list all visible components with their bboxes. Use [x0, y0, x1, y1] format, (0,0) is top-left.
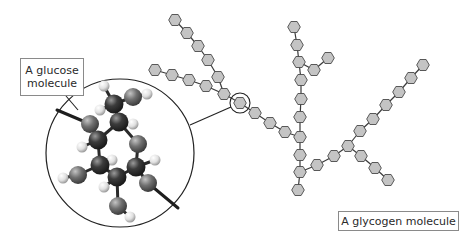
carbon-atom: [89, 131, 108, 150]
glucose-unit-hexagon: [212, 72, 225, 83]
glucose-unit-hexagon: [382, 175, 395, 186]
glucose-unit-hexagon: [295, 94, 308, 105]
glucose-unit-hexagon: [380, 100, 393, 111]
glucose-label-line1: A glucose: [21, 64, 83, 77]
glucose-unit-hexagon: [354, 126, 367, 137]
hydrogen-atom: [125, 212, 136, 223]
glucose-unit-hexagon: [200, 81, 213, 92]
glucose-unit-hexagon: [288, 22, 301, 33]
glucose-unit-hexagon: [405, 73, 418, 84]
glucose-unit-hexagon: [264, 118, 277, 129]
glucose-unit-hexagon: [218, 89, 231, 100]
oxygen-atom: [81, 115, 99, 133]
oxygen-atom: [69, 166, 87, 184]
glucose-unit-hexagon: [294, 150, 307, 161]
carbon-atom: [108, 168, 127, 187]
hydrogen-atom: [142, 89, 153, 100]
glycogen-molecule-label: A glycogen molecule: [338, 211, 459, 231]
glucose-unit-hexagon: [293, 57, 306, 68]
hydrogen-atom: [99, 81, 110, 92]
oxygen-atom: [139, 174, 157, 192]
hydrogen-atom: [128, 119, 139, 130]
oxygen-atom: [124, 88, 142, 106]
carbon-atom: [105, 95, 124, 114]
glucose-unit-hexagon: [294, 112, 307, 123]
glucose-unit-hexagon: [183, 75, 196, 86]
glucose-unit-hexagon: [169, 15, 182, 26]
zoom-connector-line: [190, 107, 231, 125]
glucose-unit-hexagon: [322, 53, 335, 64]
glucose-unit-hexagon: [295, 75, 308, 86]
glycogen-diagram: [0, 0, 469, 244]
glucose-molecule-label: A glucose molecule: [20, 58, 84, 96]
oxygen-atom: [129, 135, 147, 153]
glucose-unit-hexagon: [181, 28, 194, 39]
glucose-unit-hexagon: [234, 98, 247, 109]
glucose-unit-hexagon: [149, 65, 162, 76]
glucose-unit-hexagon: [328, 151, 341, 162]
carbon-atom: [110, 113, 129, 132]
carbon-atom: [91, 156, 110, 175]
glucose-unit-hexagon: [202, 55, 215, 66]
glucose-unit-hexagon: [249, 108, 262, 119]
glucose-unit-hexagon: [417, 60, 430, 71]
hydrogen-atom: [95, 105, 106, 116]
glucose-unit-hexagon: [308, 65, 321, 76]
carbon-atom: [127, 158, 146, 177]
glucose-unit-hexagon: [291, 40, 304, 51]
glucose-unit-hexagon: [369, 163, 382, 174]
hydrogen-atom: [58, 173, 69, 184]
glucose-unit-hexagon: [192, 41, 205, 52]
glucose-unit-hexagon: [342, 141, 355, 152]
glucose-unit-hexagon: [294, 167, 307, 178]
hydrogen-atom: [77, 142, 88, 153]
hydrogen-atom: [150, 155, 161, 166]
glucose-unit-hexagon: [355, 151, 368, 162]
glucose-unit-hexagon: [166, 70, 179, 81]
glucose-unit-hexagon: [279, 127, 292, 138]
glucose-unit-hexagon: [367, 114, 380, 125]
glucose-unit-hexagon: [292, 185, 305, 196]
oxygen-atom: [109, 197, 127, 215]
hydrogen-atom: [99, 182, 110, 193]
glucose-label-line2: molecule: [21, 77, 83, 90]
glucose-unit-hexagon: [294, 132, 307, 143]
glucose-unit-hexagon: [311, 160, 324, 171]
glucose-unit-hexagon: [393, 87, 406, 98]
